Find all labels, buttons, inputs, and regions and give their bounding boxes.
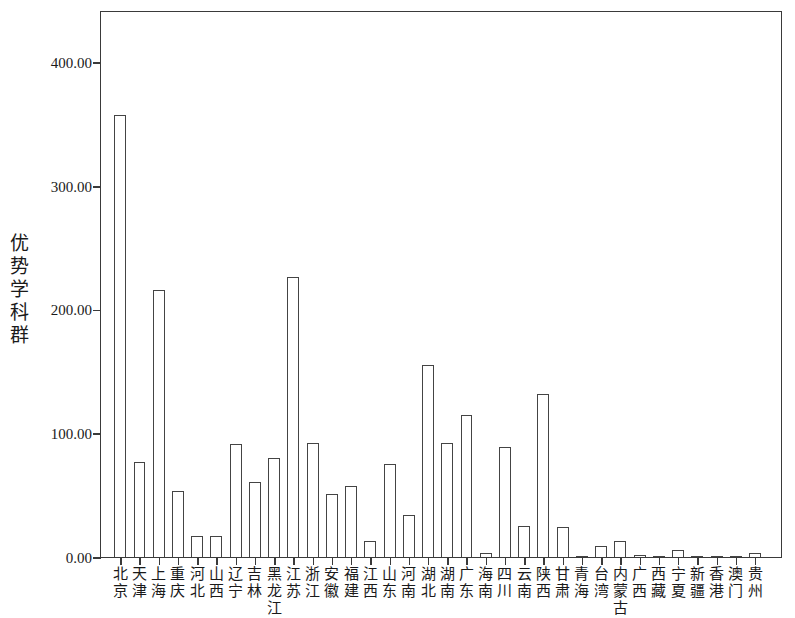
x-tick-mark [543,558,544,565]
x-tick-mark [139,558,140,565]
bar [307,443,319,557]
bar [403,515,415,557]
x-tick-mark [601,558,602,565]
x-tick-mark [274,558,275,565]
bar [614,541,626,557]
bar [172,491,184,557]
x-tick-mark [563,558,564,565]
bar [268,458,280,557]
x-tick-mark [197,558,198,565]
bar [191,536,203,557]
x-tick-mark [466,558,467,565]
x-tick-label-char: 江 [263,600,285,617]
bar [634,555,646,557]
x-tick-mark [697,558,698,565]
x-tick-label: 贵州 [744,566,766,600]
bar [749,553,761,557]
x-tick-mark [216,558,217,565]
x-tick-mark [736,558,737,565]
x-tick-mark [178,558,179,565]
bar [345,486,357,557]
bar [576,556,588,558]
x-tick-mark [428,558,429,565]
bar [691,556,703,558]
bar [730,556,742,558]
x-tick-mark [447,558,448,565]
bar [384,464,396,557]
x-tick-mark [159,558,160,565]
y-tick-label: 300.00 [30,180,92,195]
y-tick-label: 100.00 [30,427,92,442]
x-tick-mark [120,558,121,565]
bar [518,526,530,557]
y-axis-title-char: 科 [6,301,32,324]
x-tick-mark [505,558,506,565]
bars-layer [101,12,781,557]
bar-chart-figure: 优势学科群 400.00300.00200.00100.000.00 北京天津上… [0,0,795,618]
x-tick-mark [370,558,371,565]
bar [595,546,607,557]
bar [461,415,473,557]
x-tick-mark [659,558,660,565]
x-tick-mark [640,558,641,565]
y-axis-title-char: 势 [6,255,32,278]
x-tick-mark [255,558,256,565]
x-tick-label-char: 州 [744,583,766,600]
bar [153,290,165,557]
bar [499,447,511,557]
bar [422,365,434,557]
x-tick-mark [717,558,718,565]
bar [711,556,723,558]
x-tick-mark [755,558,756,565]
bar [537,394,549,557]
bar [653,556,665,558]
bar [364,541,376,557]
x-tick-label-char: 贵 [744,566,766,583]
bar [249,482,261,557]
x-tick-mark [236,558,237,565]
x-tick-mark [524,558,525,565]
y-axis-title-char: 学 [6,278,32,301]
x-tick-mark [390,558,391,565]
y-tick-label: 200.00 [30,303,92,318]
bar [557,527,569,557]
x-tick-label-char: 古 [609,600,631,617]
x-tick-mark [678,558,679,565]
x-tick-mark [313,558,314,565]
bar [210,536,222,557]
x-tick-mark [486,558,487,565]
bar [114,115,126,557]
bar [480,553,492,557]
y-tick-label: 400.00 [30,56,92,71]
y-axis-title-char: 优 [6,232,32,255]
x-tick-mark [409,558,410,565]
x-tick-mark [351,558,352,565]
bar [441,443,453,557]
bar [230,444,242,557]
plot-area [100,11,782,558]
x-tick-mark [620,558,621,565]
x-tick-mark [293,558,294,565]
y-axis-title-char: 群 [6,324,32,347]
bar [672,550,684,557]
y-axis-title: 优势学科群 [6,232,32,347]
x-tick-mark [332,558,333,565]
x-tick-mark [582,558,583,565]
y-tick-label: 0.00 [30,551,92,566]
bar [134,462,146,557]
bar [326,494,338,557]
bar [287,277,299,557]
